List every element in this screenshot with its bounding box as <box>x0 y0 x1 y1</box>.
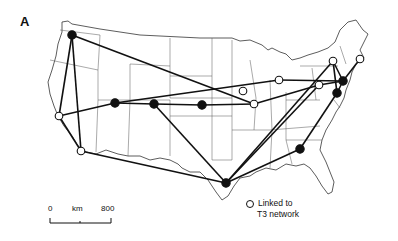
filled-node-icon-houston <box>222 179 230 187</box>
network-link <box>226 149 300 183</box>
open-circle-icon <box>246 200 254 208</box>
legend-label-line1: Linked to <box>258 198 293 209</box>
scale-start-label: 0 <box>48 204 52 213</box>
us-outline <box>48 20 368 200</box>
filled-node-icon-seattle <box>68 31 76 39</box>
filled-node-icon-college-park <box>333 89 341 97</box>
open-node-icon-san-diego <box>77 147 85 155</box>
network-link <box>154 104 202 105</box>
network-link <box>115 103 154 104</box>
network-link <box>202 104 254 105</box>
network-link <box>81 151 226 183</box>
open-node-icon-urbana <box>250 100 258 108</box>
network-link <box>59 116 81 151</box>
legend: Linked to T3 network <box>246 198 299 220</box>
network-links <box>59 35 360 183</box>
scale-bar-line <box>50 218 111 223</box>
scale-unit-label: km <box>72 204 83 213</box>
open-node-icon-ann-arbor <box>275 76 283 84</box>
open-node-icon-boston <box>356 55 364 63</box>
filled-node-icon-boulder <box>150 100 158 108</box>
network-link <box>59 35 72 116</box>
legend-label-line2: T3 network <box>246 209 299 220</box>
open-node-icon-palo-alto <box>55 112 63 120</box>
open-node-icon-ithaca <box>329 57 337 65</box>
network-link <box>279 80 343 81</box>
filled-node-icon-salt-lake <box>111 99 119 107</box>
open-node-icon-chicago <box>239 87 247 95</box>
open-node-icon-pittsburgh <box>315 81 323 89</box>
network-link <box>59 103 115 116</box>
filled-node-icon-atlanta <box>296 145 304 153</box>
filled-node-icon-lincoln <box>198 101 206 109</box>
network-link <box>72 35 254 104</box>
scale-bar: 0 km 800 <box>48 204 118 214</box>
scale-end-label: 800 <box>101 204 114 213</box>
filled-node-icon-princeton <box>339 77 347 85</box>
panel-label: A <box>20 14 29 29</box>
network-link <box>115 80 279 103</box>
network-link <box>72 35 81 151</box>
